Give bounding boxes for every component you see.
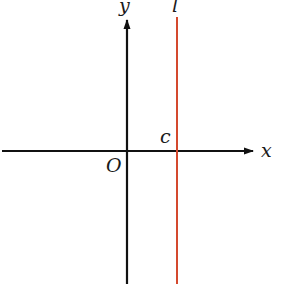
coordinate-diagram: y l c x O	[0, 0, 290, 308]
line-l-label: l	[172, 0, 178, 16]
y-axis-label: y	[118, 0, 130, 16]
x-axis-label: x	[261, 139, 272, 161]
origin-label: O	[106, 154, 122, 176]
intercept-c-label: c	[160, 125, 171, 147]
